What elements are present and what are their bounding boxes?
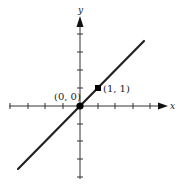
- point-label: (1, 1): [103, 83, 130, 94]
- point-one-one: [95, 85, 101, 91]
- x-axis-arrow-icon: [158, 103, 168, 110]
- y-axis-label: y: [77, 5, 84, 15]
- origin-label: (0, 0): [54, 91, 81, 102]
- coordinate-plot: x y (0, 0) (1, 1): [0, 0, 178, 184]
- point-origin: [76, 102, 83, 109]
- x-axis-label: x: [170, 101, 175, 111]
- y-axis-arrow-icon: [77, 16, 84, 27]
